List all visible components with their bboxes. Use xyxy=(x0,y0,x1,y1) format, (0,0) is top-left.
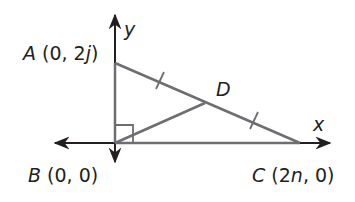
point-b-label: B (0, 0) xyxy=(28,164,98,186)
point-a-label: A (0, 2j) xyxy=(21,42,98,64)
coordinate-triangle-diagram: y x A (0, 2j) B (0, 0) C (2n, 0) D xyxy=(0,0,355,202)
x-axis-label: x xyxy=(312,113,325,135)
point-c-label: C (2n, 0) xyxy=(252,164,334,186)
y-axis-label: y xyxy=(123,18,136,40)
tick-mark-dc xyxy=(250,112,258,129)
point-d-label: D xyxy=(216,78,231,100)
segment-bd xyxy=(115,103,205,143)
